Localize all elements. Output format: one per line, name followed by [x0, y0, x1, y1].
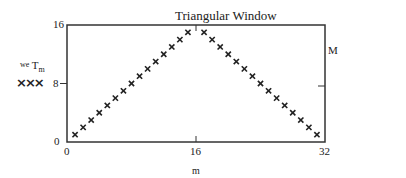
y-tick-label-8: 8 — [53, 78, 59, 89]
legend-marker: ××× — [16, 76, 43, 89]
y-axis-label-sub: m — [39, 65, 45, 74]
chart-title: Triangular Window — [175, 9, 277, 22]
x-tick-label-16: 16 — [190, 146, 201, 157]
x-tick-label-0: 0 — [64, 146, 70, 157]
y-tick-label-0: 0 — [54, 136, 60, 147]
y-axis-label-main: T — [32, 59, 39, 71]
y-tick-label-16: 16 — [53, 19, 64, 30]
right-axis-label: M — [328, 45, 338, 56]
y-axis-label: we Tm — [20, 60, 45, 72]
data-markers — [72, 30, 319, 138]
plot-frame — [67, 25, 325, 142]
x-tick-label-32: 32 — [319, 146, 330, 157]
y-axis-label-prefix: we — [20, 60, 29, 69]
x-axis-label: m — [192, 165, 200, 176]
